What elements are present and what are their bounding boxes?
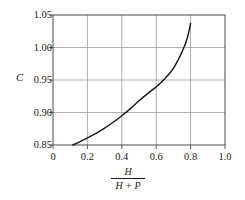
chart-figure: 1.05 1.00 0.95 0.90 0.85 C 0 0.2 0.4 0.6…: [0, 0, 245, 200]
x-tick-label: 0.4: [107, 151, 137, 162]
x-tick-label: 0.2: [72, 151, 102, 162]
x-tick-label: 0.6: [141, 151, 171, 162]
x-axis-title-numerator: H: [98, 166, 158, 178]
x-tick-label: 0: [38, 151, 68, 162]
x-tick-label: 0.8: [176, 151, 206, 162]
x-axis-title-denominator: H + P: [98, 179, 158, 191]
x-axis-title: H H + P: [98, 166, 158, 191]
x-tick-label: 1.0: [210, 151, 240, 162]
